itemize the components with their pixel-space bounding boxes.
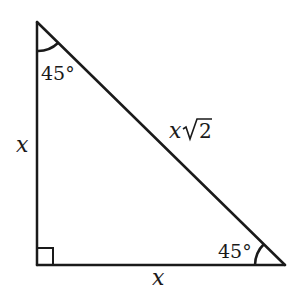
top-angle-label: 45° bbox=[41, 62, 75, 84]
hypotenuse-label: x 2 bbox=[169, 118, 212, 143]
triangle-diagram: 45° 45° x x x 2 bbox=[0, 0, 300, 299]
right-angle-marker bbox=[37, 248, 53, 265]
hypotenuse-variable: x bbox=[169, 118, 182, 143]
top-angle-arc bbox=[37, 43, 58, 51]
bottom-right-angle-arc bbox=[255, 244, 264, 265]
hypotenuse-line bbox=[37, 22, 285, 265]
bottom-right-angle-label: 45° bbox=[218, 240, 252, 262]
bottom-side-label: x bbox=[152, 265, 165, 290]
hypotenuse-radicand: 2 bbox=[199, 119, 212, 143]
left-side-label: x bbox=[16, 132, 29, 157]
